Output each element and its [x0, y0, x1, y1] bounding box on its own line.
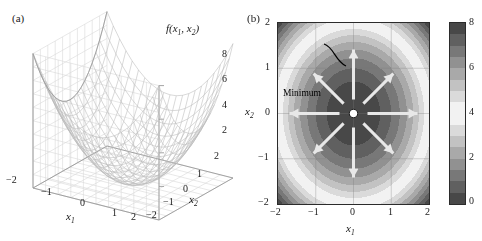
colorbar-tick-8: 8	[469, 16, 474, 27]
x1-tick-neg1-b: −1	[308, 206, 319, 217]
x1-tick-1-a: 1	[112, 207, 117, 218]
colorbar	[449, 22, 466, 205]
z-tick-6: 6	[222, 73, 227, 84]
x2-axis-label-a: x2	[189, 193, 198, 208]
z-tick-4: 4	[222, 99, 227, 110]
x2-tick-neg1-a: −1	[163, 196, 174, 207]
x1-tick-neg1-a: −1	[41, 186, 52, 197]
minimum-annotation-group	[278, 23, 429, 204]
x2-tick-2-a: 2	[214, 150, 219, 161]
x1-tick-2-b: 2	[425, 206, 430, 217]
panel-b-contour-plot: (b) Minimum 2 1 0 −1 −2 x2 −2 −1 0 1 2 x…	[241, 0, 482, 241]
x1-tick-0-a: 0	[80, 197, 85, 208]
contour-plot-area	[277, 22, 430, 205]
colorbar-tick-2: 2	[469, 151, 474, 162]
z-tick-8: 8	[222, 48, 227, 59]
colorbar-tick-4: 4	[469, 106, 474, 117]
colorbar-tick-0: 0	[469, 195, 474, 206]
x2-tick-neg2-b: −2	[258, 196, 269, 207]
x1-tick-neg2-b: −2	[270, 206, 281, 217]
z-tick-2: 2	[222, 124, 227, 135]
x2-tick-2-b: 2	[265, 16, 270, 27]
x2-tick-neg2-a: −2	[146, 209, 157, 220]
z-axis-label-a: f(x1, x2)	[166, 22, 199, 37]
figure-root: (a) f(x1, x2) 8 6 4 2 −2 −1 0 1 2 x1 −2 …	[0, 0, 482, 241]
panel-a-surface-plot: (a) f(x1, x2) 8 6 4 2 −2 −1 0 1 2 x1 −2 …	[0, 0, 241, 241]
x1-tick-neg2-a: −2	[6, 174, 17, 185]
minimum-annotation-label: Minimum	[283, 88, 321, 98]
x1-axis-label-a: x1	[66, 210, 75, 225]
x1-tick-2-a: 2	[131, 211, 136, 222]
x2-tick-0-a: 0	[183, 183, 188, 194]
colorbar-tick-6: 6	[469, 61, 474, 72]
x1-axis-label-b: x1	[346, 222, 355, 237]
x2-axis-label-b: x2	[245, 105, 254, 120]
x2-tick-0-b: 0	[265, 106, 270, 117]
panel-b-label: (b)	[247, 12, 260, 24]
minimum-leader-line	[324, 44, 346, 66]
x1-tick-0-b: 0	[350, 206, 355, 217]
colorbar-gradient-canvas	[450, 23, 465, 204]
x1-tick-1-b: 1	[388, 206, 393, 217]
minimum-marker-icon	[349, 109, 357, 117]
x2-tick-neg1-b: −1	[258, 151, 269, 162]
x2-tick-1-b: 1	[265, 61, 270, 72]
surface-3d-canvas	[0, 0, 241, 241]
x2-tick-1-a: 1	[197, 168, 202, 179]
